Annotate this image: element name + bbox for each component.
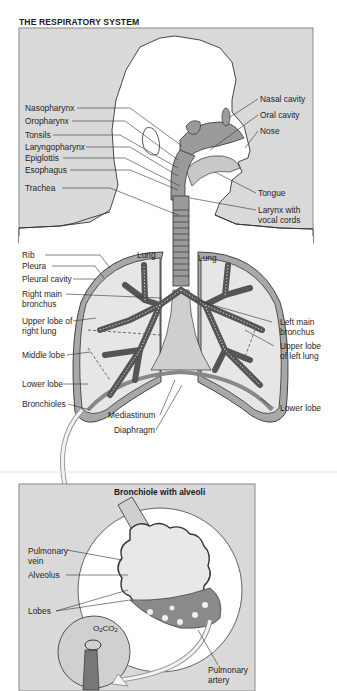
label-upper-lobe-right-line1: Upper lobe of — [22, 316, 72, 326]
label-bronchioles: Bronchioles — [22, 399, 66, 409]
label-rib: Rib — [22, 250, 35, 260]
label-trachea: Trachea — [25, 183, 55, 193]
label-gas-exchange: O2CO2 — [93, 624, 118, 635]
label-alveolus: Alveolus — [28, 570, 60, 580]
label-diaphragm: Diaphragm — [114, 425, 155, 435]
label-nose: Nose — [260, 126, 280, 136]
label-middle-lobe: Middle lobe — [22, 350, 65, 360]
label-right-main-bronchus-line2: bronchus — [22, 299, 62, 309]
label-oral-cavity: Oral cavity — [260, 110, 300, 120]
label-pulmonary-vein: Pulmonary vein — [28, 546, 68, 566]
label-lung-left: Lung — [198, 253, 217, 263]
label-lobes: Lobes — [28, 606, 51, 616]
trachea — [173, 196, 189, 286]
co2-subscript: 2 — [115, 627, 118, 633]
label-nasopharynx: Nasopharynx — [25, 103, 74, 113]
co2-text: CO — [103, 624, 115, 633]
label-upper-lobe-right: Upper lobe of right lung — [22, 316, 72, 336]
label-esophagus: Esophagus — [25, 165, 67, 175]
label-mediastinum: Mediastinum — [108, 410, 155, 420]
label-lower-lobe-right: Lower lobe — [22, 379, 63, 389]
label-laryngopharynx: Laryngopharynx — [25, 142, 85, 152]
label-left-main-bronchus-line2: bronchus — [280, 327, 314, 337]
label-pulmonary-artery: Pulmonary artery — [208, 665, 248, 685]
label-upper-lobe-left-line1: Upper lobe — [280, 341, 321, 351]
label-pleura: Pleura — [22, 261, 46, 271]
label-right-main-bronchus: Right main bronchus — [22, 289, 62, 309]
label-pulmonary-artery-line1: Pulmonary — [208, 665, 248, 675]
label-lower-lobe-left: Lower lobe — [280, 403, 321, 413]
label-tongue: Tongue — [258, 188, 285, 198]
label-oropharynx: Oropharynx — [25, 116, 69, 126]
label-pulmonary-vein-line2: vein — [28, 556, 68, 566]
label-pulmonary-vein-line1: Pulmonary — [28, 546, 68, 556]
label-left-main-bronchus: Left main bronchus — [280, 317, 314, 337]
label-right-main-bronchus-line1: Right main — [22, 289, 62, 299]
label-larynx-line2: vocal cords — [258, 215, 300, 225]
label-left-main-bronchus-line1: Left main — [280, 317, 314, 327]
label-upper-lobe-left-line2: of left lung — [280, 351, 321, 361]
label-lung-right: Lung — [137, 250, 156, 260]
label-pleural-cavity: Pleural cavity — [22, 274, 72, 284]
inset-title: Bronchiole with alveoli — [114, 487, 205, 497]
label-pulmonary-artery-line2: artery — [208, 675, 248, 685]
label-larynx-line1: Larynx with — [258, 205, 300, 215]
label-upper-lobe-left: Upper lobe of left lung — [280, 341, 321, 361]
label-epiglottis: Epiglottis — [25, 153, 59, 163]
label-nasal-cavity: Nasal cavity — [260, 94, 305, 104]
label-larynx: Larynx with vocal cords — [258, 205, 300, 225]
label-upper-lobe-right-line2: right lung — [22, 326, 72, 336]
label-tonsils: Tonsils — [25, 130, 51, 140]
